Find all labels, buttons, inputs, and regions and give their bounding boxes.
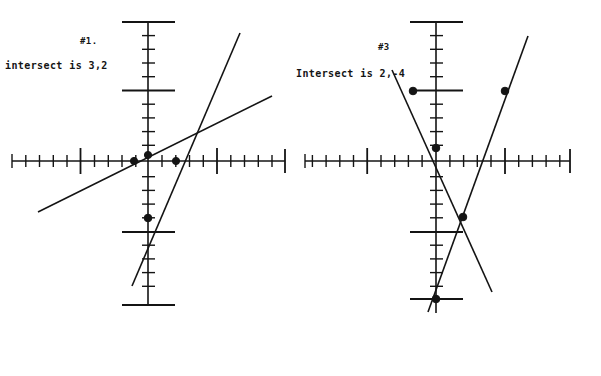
right-line-b <box>428 36 528 312</box>
right-marked-points <box>409 87 509 303</box>
right-graph-intersect-note: Intersect is 2,-4 <box>296 68 405 79</box>
left-marked-points <box>130 151 179 221</box>
right-coordinate-graph <box>305 22 570 313</box>
figure-canvas: #1. intersect is 3,2 #3 Intersect is 2,-… <box>0 0 601 376</box>
left-line-a <box>38 96 272 212</box>
left-graph-title: #1. <box>80 36 97 46</box>
right-graph-title: #3 <box>378 42 390 52</box>
graphs-svg <box>0 0 601 376</box>
left-graph-intersect-note: intersect is 3,2 <box>5 60 108 71</box>
